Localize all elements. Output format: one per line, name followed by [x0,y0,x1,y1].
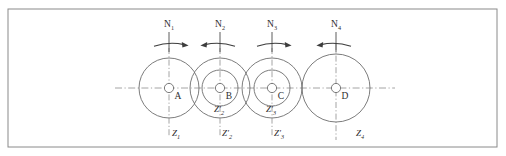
speed-label-n4: N4 [331,19,341,31]
gear-train-diagram: AN1Z1BN2Z′2CN3Z′3DN4Z4Z′2Z′3 [0,0,506,156]
shaft-label-b: B [226,91,232,101]
shaft-d: DN4Z4 [302,19,370,140]
shaft-hub-a [164,83,173,92]
figure-border [8,9,497,147]
rotation-arrowhead-2 [200,42,207,47]
figure-canvas: AN1Z1BN2Z′2CN3Z′3DN4Z4Z′2Z′3 [0,0,506,156]
shaft-label-c: C [278,91,284,101]
shaft-a: AN1Z1 [139,19,199,140]
shaft-label-d: D [342,91,349,101]
shaft-hub-c [267,83,276,92]
rotation-arrowhead-3 [285,42,292,47]
bottom-label-z3-prime: Z′3 [274,128,284,140]
bottom-label-z4: Z4 [356,128,364,140]
shaft-c: CN3Z′3 [242,19,302,140]
bottom-label-z2-prime: Z′2 [222,128,232,140]
shaft-b: BN2Z′2 [190,19,250,140]
speed-label-n1: N1 [164,19,174,31]
speed-label-n2: N2 [215,19,225,31]
rotation-arrowhead-1 [182,42,189,47]
shaft-hub-b [215,83,224,92]
shaft-label-a: A [175,91,182,101]
bottom-label-z1: Z1 [172,128,180,140]
speed-label-n3: N3 [267,19,277,31]
shaft-hub-d [331,83,340,92]
rotation-arrowhead-4 [316,42,323,47]
